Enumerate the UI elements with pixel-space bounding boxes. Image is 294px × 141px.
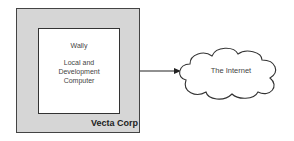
cloud-label: The Internet <box>186 66 276 75</box>
arrow-icon <box>140 68 181 74</box>
